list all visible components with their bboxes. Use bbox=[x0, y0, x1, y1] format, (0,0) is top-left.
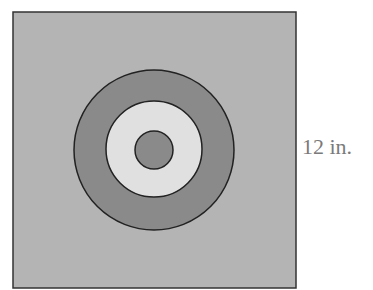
center-circle bbox=[135, 131, 173, 169]
side-length-label: 12 in. bbox=[302, 134, 352, 160]
